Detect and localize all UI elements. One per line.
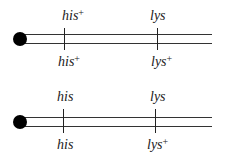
locus-tick-lys (155, 109, 156, 133)
label-lys-lower: lys+ (151, 55, 172, 69)
centromere-icon (13, 32, 27, 46)
label-lys-upper: lys (150, 9, 166, 23)
label-his-lower: his+ (58, 55, 80, 69)
label-lys-lower: lys+ (147, 138, 168, 152)
chromatid-upper (20, 34, 212, 35)
chromatid-lower (20, 43, 212, 44)
label-his-lower: his (57, 138, 73, 152)
chromatid-lower (20, 126, 212, 127)
label-his-upper: his (57, 90, 73, 104)
locus-tick-his (64, 28, 65, 50)
locus-tick-his (63, 109, 64, 133)
label-lys-upper: lys (150, 90, 166, 104)
label-his-upper: his+ (62, 9, 84, 23)
locus-tick-lys (157, 28, 158, 50)
centromere-icon (13, 115, 27, 129)
chromatid-upper (20, 117, 212, 118)
